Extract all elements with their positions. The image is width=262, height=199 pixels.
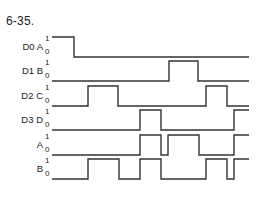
waveform-d2-c	[52, 86, 249, 106]
timing-diagram	[0, 0, 262, 199]
waveform-d3-d	[52, 110, 249, 130]
waveform-d1-b	[52, 61, 249, 81]
waveform-d0-a	[52, 37, 249, 57]
waveform-b	[52, 159, 249, 179]
waveform-a	[52, 135, 249, 155]
